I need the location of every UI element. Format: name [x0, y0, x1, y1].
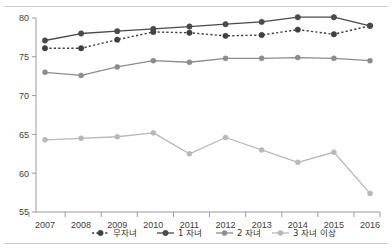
legend-swatch-marker	[98, 230, 103, 235]
data-point	[42, 46, 47, 51]
legend-label: 1 자녀	[178, 228, 202, 238]
legend-item-1[interactable]: 1 자녀	[157, 228, 202, 238]
y-tick-label: 55	[19, 207, 29, 217]
x-tick-label: 2010	[143, 220, 163, 230]
data-point	[187, 30, 192, 35]
data-point	[259, 56, 264, 61]
y-tick-label: 80	[19, 13, 29, 23]
data-point	[42, 38, 47, 43]
data-point	[295, 55, 300, 60]
data-point	[115, 37, 120, 42]
x-tick-label: 2007	[35, 220, 55, 230]
series-line	[45, 17, 370, 40]
x-tick-label: 2012	[216, 220, 236, 230]
legend-label: 무자녀	[113, 228, 137, 238]
y-tick-label: 65	[19, 130, 29, 140]
legend-swatch-marker	[163, 230, 168, 235]
legend-item-3[interactable]: 3 자녀 이상	[272, 228, 336, 238]
data-point	[223, 135, 228, 140]
data-point	[151, 130, 156, 135]
chart-figure: 5560657075802007200820092010201120122013…	[0, 0, 392, 251]
series-line	[45, 133, 370, 194]
data-point	[331, 15, 336, 20]
series-line	[45, 58, 370, 76]
data-point	[368, 58, 373, 63]
legend-swatch-marker	[222, 231, 227, 236]
series-1	[42, 15, 372, 44]
legend-label: 2 자녀	[237, 228, 261, 238]
data-point	[223, 56, 228, 61]
line-chart-plot: 5560657075802007200820092010201120122013…	[0, 0, 392, 251]
data-point	[223, 22, 228, 27]
y-tick-label: 75	[19, 52, 29, 62]
data-point	[331, 150, 336, 155]
series-line	[45, 26, 370, 48]
chart-legend: 무자녀1 자녀2 자녀3 자녀 이상	[92, 228, 336, 238]
data-point	[295, 27, 300, 32]
data-point	[78, 31, 83, 36]
data-point	[295, 160, 300, 165]
data-point	[331, 32, 336, 37]
series-3	[43, 130, 373, 196]
legend-item-0[interactable]: 무자녀	[92, 228, 137, 238]
data-point	[115, 134, 120, 139]
y-tick-label: 60	[19, 169, 29, 179]
data-point	[43, 70, 48, 75]
data-point	[78, 46, 83, 51]
data-point	[43, 137, 48, 142]
series-2	[43, 55, 373, 78]
y-axis-ticks: 556065707580	[19, 13, 36, 217]
data-point	[259, 19, 264, 24]
data-point	[151, 58, 156, 63]
data-point	[115, 28, 120, 33]
data-point	[368, 191, 373, 196]
data-point	[187, 60, 192, 65]
chart-axes	[36, 18, 380, 212]
x-tick-label: 2008	[71, 220, 91, 230]
y-tick-label: 70	[19, 91, 29, 101]
data-point	[367, 23, 372, 28]
data-point	[79, 73, 84, 78]
legend-swatch-marker	[278, 231, 283, 236]
data-point	[259, 147, 264, 152]
data-point	[295, 15, 300, 20]
data-point	[259, 32, 264, 37]
x-tick-label: 2016	[360, 220, 380, 230]
legend-label: 3 자녀 이상	[293, 228, 336, 238]
data-point	[79, 136, 84, 141]
data-point	[187, 151, 192, 156]
data-point	[187, 24, 192, 29]
data-point	[223, 33, 228, 38]
data-point	[151, 26, 156, 31]
data-point	[115, 64, 120, 69]
series-0	[42, 23, 372, 51]
data-point	[331, 56, 336, 61]
